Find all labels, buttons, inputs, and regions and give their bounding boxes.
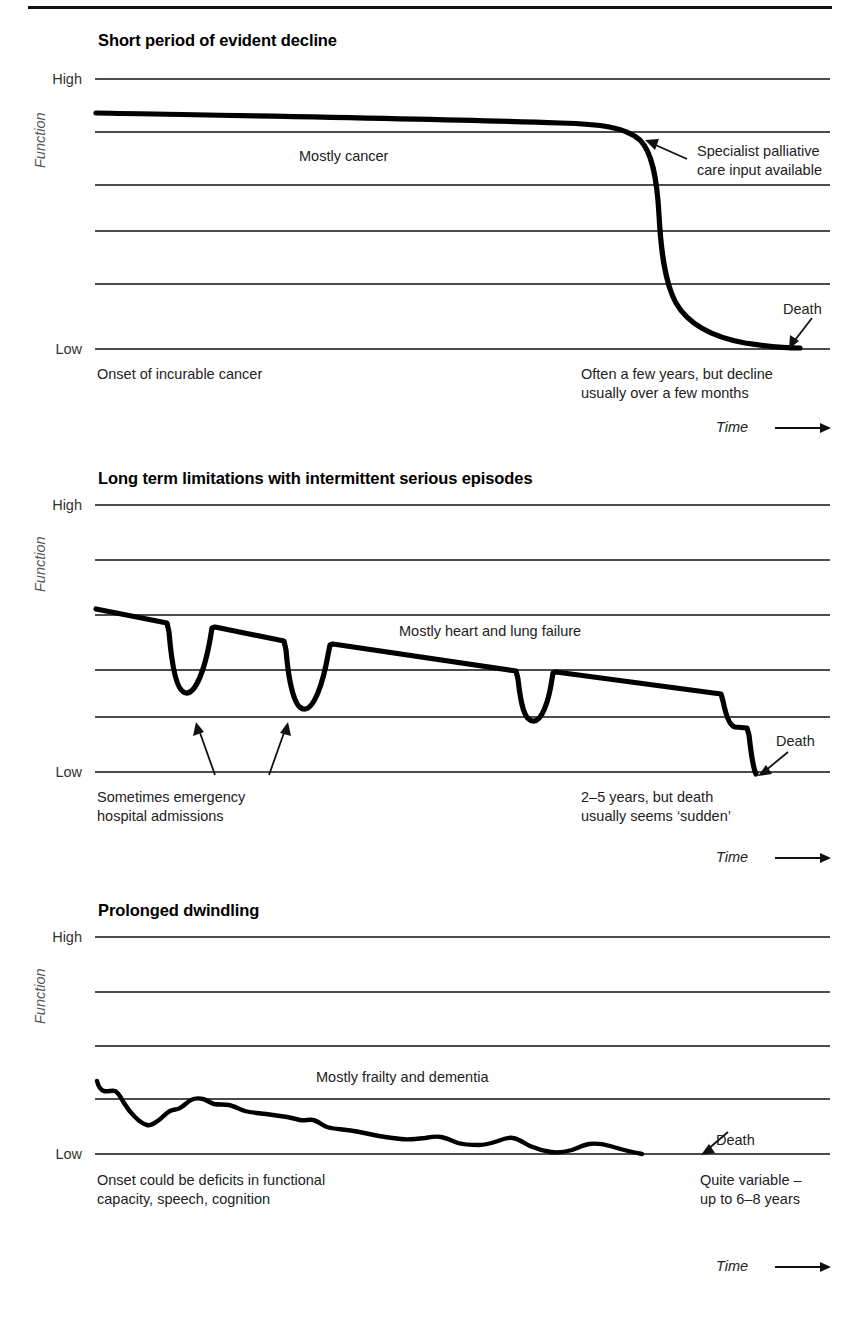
panel-3-plot — [0, 0, 860, 1329]
caption-right-line-2: up to 6–8 years — [700, 1190, 800, 1209]
time-arrow-panel-3 — [775, 1262, 831, 1272]
death-label: Death — [716, 1131, 755, 1150]
trajectory-curve-frailty — [97, 1081, 642, 1154]
x-axis-label: Time — [716, 1258, 748, 1274]
caption-left-line-1: Onset could be deficits in functional — [97, 1171, 325, 1190]
caption-left-line-2: capacity, speech, cognition — [97, 1190, 270, 1209]
figure-root: Short period of evident decline Function… — [0, 0, 860, 1329]
inplot-label: Mostly frailty and dementia — [316, 1068, 488, 1087]
caption-right-line-1: Quite variable – — [700, 1171, 802, 1190]
panel-prolonged-dwindling: Prolonged dwindling Function High Low — [0, 0, 860, 1329]
gridlines-panel-3 — [95, 937, 830, 1154]
